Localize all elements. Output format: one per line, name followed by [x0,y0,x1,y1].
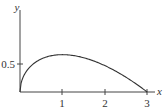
x-tick-label-3: 3 [144,97,150,109]
curve-line [20,55,147,92]
x-tick-label-1: 1 [59,97,65,109]
y-axis-label: y [14,1,20,13]
x-axis-label: x [156,85,162,97]
chart: 1 2 3 0.5 x y [0,0,167,111]
y-tick-label-05: 0.5 [1,58,15,70]
x-tick-label-2: 2 [102,97,108,109]
